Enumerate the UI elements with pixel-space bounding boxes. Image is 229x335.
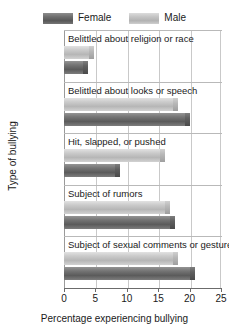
bar-end-cap [173,98,178,111]
bar-end-cap [190,267,195,280]
x-tick-label-25: 25 [215,293,226,304]
bar-group [64,185,221,237]
bar-male [64,201,166,214]
bar-female [64,164,116,177]
x-tick-5 [95,288,96,292]
x-tick-label-5: 5 [93,293,99,304]
bar-end-cap [89,46,94,59]
bar-end-cap [173,252,178,265]
bar-male [64,149,161,162]
y-axis-title: Type of bullying [7,91,19,221]
bar-end-cap [83,61,88,74]
bar-end-cap [115,164,120,177]
bar-male [64,46,90,59]
x-tick-25 [221,288,222,292]
bullying-bar-chart: Female Male Belittled about religion or … [0,0,229,335]
chart-legend: Female Male [0,8,229,28]
bar-end-cap [185,113,190,126]
x-tick-0 [64,288,65,292]
bar-group [64,236,221,288]
x-axis-line [64,288,222,289]
bar-female [64,61,84,74]
legend-label-male: Male [164,13,186,23]
legend-label-female: Female [78,13,111,23]
x-tick-15 [158,288,159,292]
x-tick-10 [127,288,128,292]
x-tick-20 [190,288,191,292]
x-tick-label-10: 10 [121,293,132,304]
bar-group [64,133,221,185]
bar-female [64,113,186,126]
legend-entry-male: Male [129,13,186,24]
bar-end-cap [170,216,175,229]
legend-swatch-female-icon [43,13,73,24]
x-tick-label-15: 15 [153,293,164,304]
bar-group [64,30,221,82]
bar-female [64,267,191,280]
legend-swatch-male-icon [129,13,159,24]
bar-group [64,82,221,134]
x-axis-title: Percentage experiencing bullying [0,313,229,325]
bar-male [64,98,174,111]
bar-female [64,216,171,229]
bar-male [64,252,174,265]
bar-end-cap [160,149,165,162]
x-tick-label-20: 20 [184,293,195,304]
x-tick-label-0: 0 [61,293,67,304]
legend-entry-female: Female [43,13,111,24]
bar-end-cap [165,201,170,214]
